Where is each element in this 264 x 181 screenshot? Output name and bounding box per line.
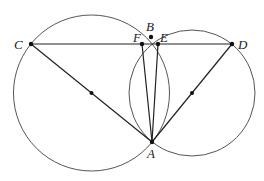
label-d: D: [237, 37, 248, 52]
label-f: F: [132, 30, 142, 45]
label-a: A: [146, 146, 155, 161]
center-o1: [90, 91, 94, 95]
center-o2: [190, 91, 194, 95]
point-b: [149, 35, 153, 39]
point-d: [230, 42, 234, 46]
geometry-diagram: C F B E D A: [0, 0, 264, 181]
segment-fa: [142, 44, 152, 142]
label-e: E: [159, 30, 168, 45]
segment-ea: [152, 44, 158, 142]
point-c: [29, 42, 33, 46]
label-c: C: [14, 37, 23, 52]
point-a: [150, 140, 154, 144]
label-b: B: [146, 19, 154, 34]
